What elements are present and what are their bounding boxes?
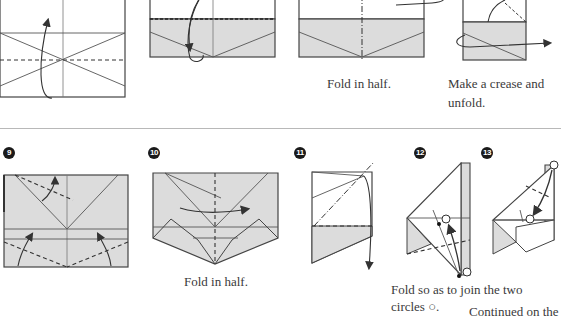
step-12-caption-circles: circles [391,299,425,314]
step-9-badge: 9 [3,147,15,159]
step-11-diagram [312,162,374,268]
step-12-badge: 12 [414,147,426,159]
circle-symbol-icon: ○. [428,299,439,314]
section-divider [0,128,561,129]
step-13-diagram [493,161,558,254]
step-9-diagram [4,175,128,267]
step-8-caption-line2: unfold. [448,94,485,111]
step-12-caption-line1: Fold so as to join the two [391,281,522,298]
step-8-caption-line1: Make a crease and [448,75,544,92]
continued-note: Continued on the [469,303,559,320]
step-12-caption-line2: circles ○. [391,298,439,315]
step-10-diagram [153,173,278,264]
step-13-badge: 13 [481,147,493,159]
step-6-diagram [150,0,275,61]
step-11-badge: 11 [294,147,306,159]
step-5-diagram [0,0,125,98]
step-7-diagram [299,0,444,60]
step-10-badge: 10 [148,147,160,159]
step-10-caption: Fold in half. [184,273,248,290]
step-12-diagram [407,163,471,278]
step-8-diagram [457,0,550,60]
step-7-caption: Fold in half. [327,75,391,92]
